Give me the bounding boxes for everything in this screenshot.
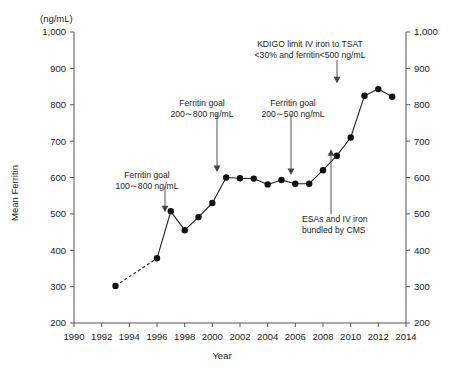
data-point [375, 86, 381, 92]
y-tick-label-left: 1,000 [42, 26, 66, 37]
x-tick-label: 1994 [119, 331, 140, 342]
data-point [237, 175, 243, 181]
annotation-arrowhead-ferritin-goal-200-800 [214, 166, 221, 173]
y-axis-ticks-right: 2003004005006007008009001,000 [406, 26, 438, 328]
y-tick-label-right: 800 [414, 99, 430, 110]
data-point [306, 181, 312, 187]
y-tick-label-left: 300 [50, 281, 66, 292]
data-point [334, 153, 340, 159]
annotation-arrowhead-kdigo-limit [334, 77, 341, 84]
x-tick-label: 2006 [285, 331, 306, 342]
annotation-ferritin-goal-200-800: Ferritin goal200∼800 ng/mL [171, 98, 234, 119]
y-tick-label-left: 900 [50, 63, 66, 74]
annotation-line: Ferritin goal [270, 98, 315, 108]
data-point [168, 208, 174, 214]
chart-canvas: (ng/mL) Mean Ferritin Year 2003004005006… [0, 0, 456, 370]
y-tick-label-right: 700 [414, 136, 430, 147]
x-tick-label: 2012 [368, 331, 389, 342]
annotation-line: bundled by CMS [302, 225, 366, 235]
data-point [195, 214, 201, 220]
annotation-kdigo-limit: KDIGO limit IV iron to TSAT<30% and ferr… [255, 39, 366, 60]
data-point [209, 200, 215, 206]
x-tick-label: 2000 [202, 331, 223, 342]
data-point [265, 181, 271, 187]
annotation-esa-bundling: ESAs and IV ironbundled by CMS [302, 214, 368, 235]
data-point [182, 227, 188, 233]
y-tick-label-right: 200 [414, 317, 430, 328]
annotation-line: Ferritin goal [124, 170, 169, 180]
series-dashed-segment [116, 258, 158, 286]
annotation-line: KDIGO limit IV iron to TSAT [257, 39, 363, 49]
x-tick-label: 2004 [257, 331, 278, 342]
data-point [292, 181, 298, 187]
x-tick-label: 2002 [229, 331, 250, 342]
x-tick-label: 1996 [146, 331, 167, 342]
y-axis-unit-label: (ng/mL) [40, 13, 73, 24]
y-tick-label-left: 700 [50, 136, 66, 147]
data-point [389, 94, 395, 100]
annotation-line: Ferritin goal [179, 98, 224, 108]
x-axis-ticks: 1990199219941996199820002002200420062008… [63, 323, 416, 342]
y-tick-label-right: 300 [414, 281, 430, 292]
annotations-layer: Ferritin goal100∼800 ng/mLFerritin goal2… [116, 39, 368, 235]
annotation-arrowhead-ferritin-goal-100-800 [162, 206, 169, 213]
x-tick-label: 1992 [91, 331, 112, 342]
annotation-line: ESAs and IV iron [302, 214, 368, 224]
data-point [361, 93, 367, 99]
x-tick-label: 1998 [174, 331, 195, 342]
annotation-line: <30% and ferritin<500 ng/mL [255, 50, 366, 60]
y-axis-title: Mean Ferritin [9, 165, 20, 221]
y-tick-label-right: 1,000 [414, 26, 438, 37]
y-tick-label-right: 900 [414, 63, 430, 74]
annotation-line: 100∼800 ng/mL [116, 181, 179, 191]
y-tick-label-right: 400 [414, 245, 430, 256]
x-tick-label: 1990 [63, 331, 84, 342]
x-tick-label: 2010 [340, 331, 361, 342]
data-point [320, 167, 326, 173]
annotation-line: 200∼500 ng/mL [262, 109, 325, 119]
x-tick-label: 2008 [312, 331, 333, 342]
data-point [251, 175, 257, 181]
data-point [348, 134, 354, 140]
y-axis-ticks-left: 2003004005006007008009001,000 [42, 26, 74, 328]
data-point [278, 177, 284, 183]
y-tick-label-left: 500 [50, 208, 66, 219]
y-tick-label-right: 600 [414, 172, 430, 183]
annotation-arrowhead-esa-bundling [328, 149, 335, 156]
data-point [223, 174, 229, 180]
y-tick-label-right: 500 [414, 208, 430, 219]
y-tick-label-left: 800 [50, 99, 66, 110]
y-tick-label-left: 400 [50, 245, 66, 256]
annotation-ferritin-goal-200-500: Ferritin goal200∼500 ng/mL [262, 98, 325, 119]
annotation-arrowhead-ferritin-goal-200-500 [288, 168, 295, 175]
y-tick-label-left: 600 [50, 172, 66, 183]
x-axis-title: Year [212, 350, 231, 361]
x-tick-label: 2014 [395, 331, 416, 342]
ferritin-trend-chart: (ng/mL) Mean Ferritin Year 2003004005006… [0, 0, 456, 370]
annotation-line: 200∼800 ng/mL [171, 109, 234, 119]
y-tick-label-left: 200 [50, 317, 66, 328]
data-point [154, 255, 160, 261]
data-point [112, 283, 118, 289]
annotation-ferritin-goal-100-800: Ferritin goal100∼800 ng/mL [116, 170, 179, 191]
